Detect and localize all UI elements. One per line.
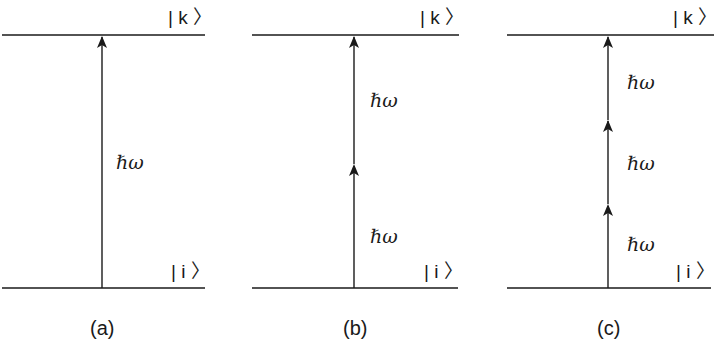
energy-level-diagram: | k 〉 | i 〉 ℏω (a) | k 〉 | i 〉 ℏω ℏω (b)…	[0, 0, 719, 359]
panel-caption: (b)	[343, 317, 367, 339]
photon-energy-label: ℏω	[627, 233, 655, 255]
upper-state-label: | k 〉	[168, 7, 212, 28]
panel-c: | k 〉 | i 〉 ℏω ℏω ℏω (c)	[507, 7, 717, 339]
upper-state-label: | k 〉	[420, 7, 464, 28]
photon-energy-label: ℏω	[627, 71, 655, 93]
panel-caption: (a)	[90, 317, 114, 339]
lower-state-label: | i 〉	[424, 261, 463, 282]
lower-state-label: | i 〉	[171, 261, 210, 282]
lower-state-label: | i 〉	[676, 261, 715, 282]
photon-energy-label: ℏω	[116, 151, 144, 173]
photon-energy-label: ℏω	[627, 152, 655, 174]
upper-state-label: | k 〉	[673, 7, 717, 28]
panel-caption: (c)	[597, 317, 620, 339]
photon-energy-label: ℏω	[370, 225, 398, 247]
panel-b: | k 〉 | i 〉 ℏω ℏω (b)	[252, 7, 464, 339]
photon-energy-label: ℏω	[370, 89, 398, 111]
panel-a: | k 〉 | i 〉 ℏω (a)	[2, 7, 212, 339]
